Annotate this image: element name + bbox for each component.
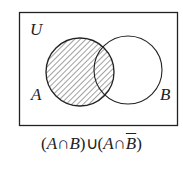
- set-a-label: A: [30, 85, 42, 104]
- paren: ): [136, 134, 142, 153]
- set-a-symbol: A: [103, 134, 113, 153]
- set-a-symbol: A: [47, 134, 57, 153]
- set-b-complement-symbol: B: [126, 134, 136, 153]
- intersection-symbol: ∩: [57, 134, 69, 153]
- universe-label: U: [30, 20, 44, 39]
- set-b-label: B: [160, 85, 171, 104]
- union-symbol: ∪: [86, 134, 98, 153]
- set-a-circle: [46, 38, 114, 106]
- set-expression-caption: (A∩B)∪(A∩B): [0, 133, 183, 154]
- set-b-symbol: B: [69, 134, 79, 153]
- intersection-symbol: ∩: [114, 134, 126, 153]
